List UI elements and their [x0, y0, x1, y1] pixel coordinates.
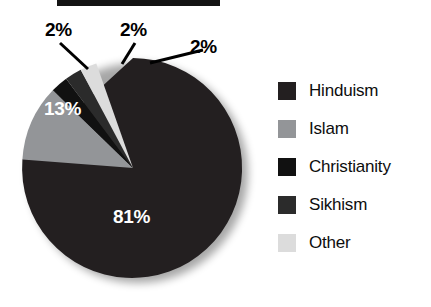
legend-swatch-christianity [278, 158, 296, 176]
pie-chart-figure: 2% 2% 2% 13% 81% Hinduism Islam Christia… [0, 0, 431, 307]
callout-label-christianity: 2% [45, 20, 72, 39]
slice-value-hinduism: 81% [113, 207, 150, 226]
pie-chart-area: 2% 2% 2% 13% 81% [0, 0, 270, 307]
legend-swatch-islam [278, 120, 296, 138]
legend-item-other[interactable]: Other [278, 224, 431, 262]
legend-label-other: Other [309, 233, 351, 253]
legend-item-sikhism[interactable]: Sikhism [278, 186, 431, 224]
chart-legend: Hinduism Islam Christianity Sikhism Othe… [278, 72, 431, 262]
legend-item-hinduism[interactable]: Hinduism [278, 72, 431, 110]
legend-label-islam: Islam [309, 119, 349, 139]
callout-label-other: 2% [190, 37, 217, 56]
legend-swatch-hinduism [278, 82, 296, 100]
legend-label-sikhism: Sikhism [309, 195, 367, 215]
legend-item-christianity[interactable]: Christianity [278, 148, 431, 186]
legend-item-islam[interactable]: Islam [278, 110, 431, 148]
pie-chart-svg [0, 0, 270, 307]
legend-swatch-other [278, 234, 296, 252]
legend-label-christianity: Christianity [309, 157, 391, 177]
legend-swatch-sikhism [278, 196, 296, 214]
callout-label-sikhism: 2% [120, 20, 147, 39]
legend-label-hinduism: Hinduism [309, 81, 378, 101]
leader-line-christianity [60, 43, 88, 69]
slice-value-islam: 13% [44, 99, 81, 118]
